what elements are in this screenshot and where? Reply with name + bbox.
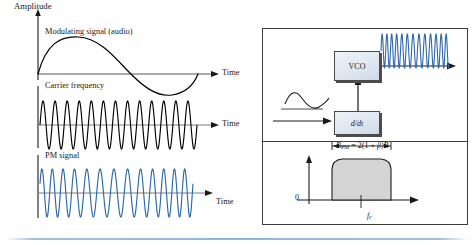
modulating-time-label: Time <box>222 69 239 77</box>
bandwidth-formula-tail: )B <box>381 141 389 150</box>
carrier-time-arrow <box>211 122 219 128</box>
differentiator-block-label: d/dt <box>351 119 363 128</box>
input-arrow-head <box>323 118 332 125</box>
spectrum-origin-label: 0 <box>295 194 299 202</box>
spectrum-vertical-axis-arrow <box>306 155 312 163</box>
carrier-time-label: Time <box>222 120 239 128</box>
spectrum-band-shape <box>332 159 391 200</box>
pm-signal-group <box>38 155 213 218</box>
carrier-signal-label: Carrier frequency <box>45 82 104 90</box>
modulating-signal-label: Modulating signal (audio) <box>45 28 132 36</box>
bottom-horizontal-rule <box>6 238 468 240</box>
figure-fm-pm-modulation: Amplitude Modulating signal (audio) Time… <box>0 0 475 245</box>
input-audio-waveform <box>285 93 329 108</box>
pm-time-label: Time <box>216 198 233 206</box>
center-frequency-label: fc <box>367 212 372 221</box>
bandwidth-formula-subscript: PM <box>341 144 349 150</box>
modulating-time-arrow <box>211 71 219 77</box>
pm-time-arrow <box>205 190 213 196</box>
amplitude-axis-label: Amplitude <box>14 2 52 11</box>
bandwidth-formula: BPM= 2(1 + β)B <box>336 142 388 151</box>
carrier-signal-group <box>38 86 219 149</box>
spectrum-svg <box>263 142 467 225</box>
vco-block-label: VCO <box>349 62 366 71</box>
vco-block[interactable]: VCO <box>334 51 380 81</box>
spectrum-frequency-axis-arrow <box>410 197 419 204</box>
differentiator-block[interactable]: d/dt <box>334 111 380 135</box>
center-frequency-sub: c <box>369 214 372 220</box>
bandwidth-formula-equals: = 2(1 + <box>351 141 377 150</box>
left-waveform-panel: Amplitude Modulating signal (audio) Time… <box>0 0 255 228</box>
pm-signal-label: PM signal <box>45 152 79 160</box>
output-pm-carrier-waveform <box>381 34 449 68</box>
right-diagram-panel: VCO d/dt BPM= 2(1 + β)B <box>262 28 468 225</box>
